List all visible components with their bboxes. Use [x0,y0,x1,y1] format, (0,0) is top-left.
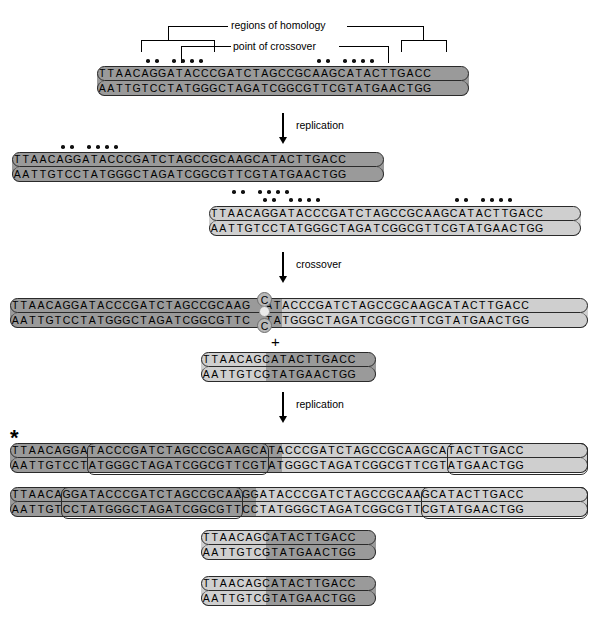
strand-parent-bottom: AATTGTCCTATGGGCTAGATCGGCGTTCGTATGAACTGG [97,81,469,96]
seq-f2-b2: CCTATGGGCTAGATCGGCGTT [242,502,421,516]
strand-final-short-1-top: TTAACAGCATACTTGACC [201,530,376,545]
seq-f1-b1: ATGGGCTAGATCGGCGTTCGT [88,458,267,472]
sequence-parent-bottom: AATTGTCCTATGGGCTAGATCGGCGTTCGTATGAACTGG [98,81,431,95]
seq-f2-t0: TTAACA [11,488,62,501]
seq-f1-t2: TACCCGATCTAGCCGCAAGCA [267,444,446,457]
sequence-crossover-short-top: TTAACAGCATACTTGACC [202,353,356,366]
strand-final-short-2-top: TTAACAGCATACTTGACC [201,576,376,591]
seq-f2-t2: GGATACCCGATCTAGCCGCAA [242,488,421,501]
sequence-crossover-long-right-bottom: TATGGGCTAGATCGGCGTTCGTATGAACTGG [264,313,529,327]
duplex-final-long-1: TTAACAGGA TACCCGATCTAGCCGCAAGCA TACCCGAT… [10,443,588,473]
label-replication-2: replication [296,398,344,410]
dot-markers-parent-right [317,59,397,65]
strand-repA-top: TTAACAGGATACCCGATCTAGCCGCAAGCATACTTGACC [12,152,384,167]
arrow-replication-2 [280,392,290,426]
duplex-final-long-2: TTAACA GGATACCCGATCTAGCCGCAA GGATACCCGAT… [10,487,588,517]
sequence-crossover-long-left-top: TTAACAGGATACCCGATCTAGCCGCAAG [11,299,250,312]
label-regions-of-homology: regions of homology [231,19,326,31]
strand-repB-bottom: AATTGTCCTATGGGCTAGATCGGCGTTCGTATGAACTGG [209,221,581,236]
seq-f1-b2: ATGGGCTAGATCGGCGTTCGT [267,458,446,472]
sequence-repB-bottom: AATTGTCCTATGGGCTAGATCGGCGTTCGTATGAACTGG [210,221,543,235]
sequence-final-short-2-top: TTAACAGCATACTTGACC [202,577,356,590]
sequence-parent-top: TTAACAGGATACCCGATCTAGCCGCAAGCATACTTGACC [98,67,431,80]
sequence-final-short-2-bottom: AATTGTCGTATGAACTGG [202,591,356,605]
duplex-crossover-long: TTAACAGGATACCCGATCTAGCCGCAAG ATACCCGATCT… [10,298,588,328]
sequence-final-short-1-bottom: AATTGTCGTATGAACTGG [202,545,356,559]
seq-f2-b1: CCTATGGGCTAGATCGGCGTT [62,502,241,516]
seq-f2-b3: CGTATGAACTGG [421,502,524,516]
seq-f1-t1: TACCCGATCTAGCCGCAAGCA [88,444,267,457]
strand-crossover-short-bottom: AATTGTCGTATGAACTGG [201,367,376,382]
strand-final-long-1-top: TTAACAGGA TACCCGATCTAGCCGCAAGCA TACCCGAT… [10,443,588,458]
arrow-crossover [280,252,290,286]
strand-crossover-long-top: TTAACAGGATACCCGATCTAGCCGCAAG ATACCCGATCT… [10,298,588,313]
strand-final-short-1-bottom: AATTGTCGTATGAACTGG [201,545,376,560]
arrow-replication-1 [280,113,290,147]
crossover-bubble-top: C [257,292,272,307]
strand-final-long-2-bottom: AATTGT CCTATGGGCTAGATCGGCGTT CCTATGGGCTA… [10,502,588,517]
sequence-repA-top: TTAACAGGATACCCGATCTAGCCGCAAGCATACTTGACC [13,153,346,166]
strand-repA-bottom: AATTGTCCTATGGGCTAGATCGGCGTTCGTATGAACTGG [12,167,384,182]
seq-f2-t1: GGATACCCGATCTAGCCGCAA [62,488,241,501]
seq-f2-t3: GCATACTTGACC [421,488,524,501]
duplex-replicated-a: TTAACAGGATACCCGATCTAGCCGCAAGCATACTTGACC … [12,152,384,182]
sequence-crossover-short-bottom: AATTGTCGTATGAACTGG [202,367,356,381]
seq-f1-t0: TTAACAGGA [11,444,88,457]
dot-markers-parent-left [146,59,226,65]
strand-crossover-short-top: TTAACAGCATACTTGACC [201,352,376,367]
strand-final-short-2-bottom: AATTGTCGTATGAACTGG [201,591,376,606]
sequence-crossover-long-left-bottom: AATTGTCCTATGGGCTAGATCGGCGTTC [11,313,250,327]
label-point-of-crossover: point of crossover [233,40,316,52]
seq-f2-b0: AATTGT [11,502,62,516]
sequence-crossover-long-right-top: ATACCCGATCTAGCCGCAAGCATACTTGACC [264,299,529,312]
seq-f1-b0: AATTGTCCT [11,458,88,472]
sequence-repB-top: TTAACAGGATACCCGATCTAGCCGCAAGCATACTTGACC [210,207,543,220]
duplex-final-short-2: TTAACAGCATACTTGACC AATTGTCGTATGAACTGG [201,576,376,606]
seq-f1-t3: TACTTGACC [447,444,524,457]
sequence-repA-bottom: AATTGTCCTATGGGCTAGATCGGCGTTCGTATGAACTGG [13,167,346,181]
crossover-bubble-middle [259,306,270,317]
duplex-final-short-1: TTAACAGCATACTTGACC AATTGTCGTATGAACTGG [201,530,376,560]
duplex-parent: TTAACAGGATACCCGATCTAGCCGCAAGCATACTTGACC … [97,66,469,96]
strand-parent-top: TTAACAGGATACCCGATCTAGCCGCAAGCATACTTGACC [97,66,469,81]
label-crossover: crossover [296,258,342,270]
strand-final-long-2-top: TTAACA GGATACCCGATCTAGCCGCAA GGATACCCGAT… [10,487,588,502]
crossover-bubble-bottom: C [257,318,272,333]
duplex-crossover-short: TTAACAGCATACTTGACC AATTGTCGTATGAACTGG [201,352,376,382]
strand-repB-top: TTAACAGGATACCCGATCTAGCCGCAAGCATACTTGACC [209,206,581,221]
sequence-final-short-1-top: TTAACAGCATACTTGACC [202,531,356,544]
strand-crossover-long-bottom: AATTGTCCTATGGGCTAGATCGGCGTTC TATGGGCTAGA… [10,313,588,328]
duplex-replicated-b: TTAACAGGATACCCGATCTAGCCGCAAGCATACTTGACC … [209,206,581,236]
label-replication-1: replication [296,119,344,131]
strand-final-long-1-bottom: AATTGTCCT ATGGGCTAGATCGGCGTTCGT ATGGGCTA… [10,458,588,473]
seq-f1-b3: ATGAACTGG [447,458,524,472]
plus-sign-crossover: + [271,337,280,347]
